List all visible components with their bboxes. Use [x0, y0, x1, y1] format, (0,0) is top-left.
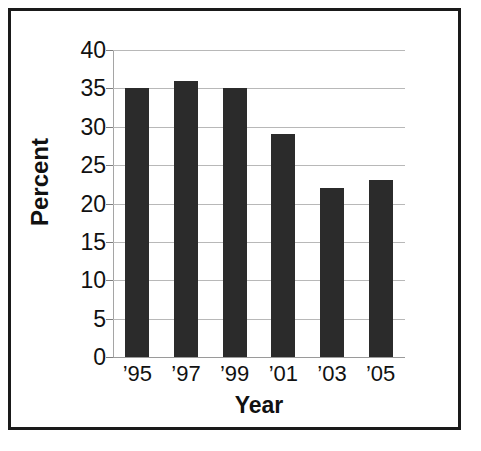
y-tick-label-20: 20	[80, 192, 106, 215]
bar-97	[174, 81, 198, 357]
y-axis-tick-labels: 0510152025303540	[60, 50, 106, 357]
y-tick-5	[106, 319, 113, 320]
y-tick-0	[106, 357, 113, 358]
y-tick-10	[106, 280, 113, 281]
x-tick-label-03: ’03	[308, 361, 356, 387]
gridline-5	[113, 319, 405, 320]
plot-area	[113, 50, 405, 357]
y-tick-label-30: 30	[80, 115, 106, 138]
y-tick-label-10: 10	[80, 269, 106, 292]
y-tick-20	[106, 204, 113, 205]
x-tick-label-01: ’01	[259, 361, 307, 387]
y-tick-label-25: 25	[80, 154, 106, 177]
y-axis-title: Percent	[26, 122, 54, 242]
y-tick-label-5: 5	[93, 307, 106, 330]
y-tick-label-35: 35	[80, 77, 106, 100]
gridline-25	[113, 165, 405, 166]
x-tick-label-97: ’97	[162, 361, 210, 387]
gridline-15	[113, 242, 405, 243]
y-tick-15	[106, 242, 113, 243]
gridline-10	[113, 280, 405, 281]
y-tick-35	[106, 88, 113, 89]
bar-05	[369, 180, 393, 357]
gridline-35	[113, 88, 405, 89]
bar-01	[271, 134, 295, 357]
y-tick-label-40: 40	[80, 39, 106, 62]
bar-03	[320, 188, 344, 357]
gridline-30	[113, 127, 405, 128]
gridline-0	[113, 357, 405, 358]
chart-figure: Percent 0510152025303540 ’95’97’99’01’03…	[0, 0, 481, 451]
x-tick-label-99: ’99	[211, 361, 259, 387]
gridline-40	[113, 50, 405, 51]
x-tick-label-95: ’95	[113, 361, 161, 387]
gridline-20	[113, 204, 405, 205]
bar-99	[223, 88, 247, 357]
x-tick-label-05: ’05	[357, 361, 405, 387]
y-tick-label-0: 0	[93, 346, 106, 369]
x-axis-title: Year	[113, 392, 405, 419]
y-tick-30	[106, 127, 113, 128]
y-tick-label-15: 15	[80, 230, 106, 253]
y-tick-40	[106, 50, 113, 51]
bar-95	[125, 88, 149, 357]
y-tick-25	[106, 165, 113, 166]
x-axis-tick-labels: ’95’97’99’01’03’05	[113, 361, 405, 391]
